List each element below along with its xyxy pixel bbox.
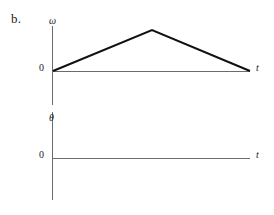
figure-graphics [0, 0, 274, 215]
omega-origin-label: 0 [39, 63, 44, 73]
theta-y-axis-label: θ [49, 113, 54, 123]
theta-plot [53, 112, 251, 200]
angular-velocity-curve [53, 30, 250, 71]
omega-x-axis-label: t [256, 63, 259, 73]
omega-plot [53, 26, 251, 105]
theta-x-axis-label: t [256, 150, 259, 160]
theta-origin-label: 0 [39, 150, 44, 160]
figure-container: b. ω 0 t θ 0 t [0, 0, 274, 215]
omega-y-axis-label: ω [49, 16, 56, 26]
